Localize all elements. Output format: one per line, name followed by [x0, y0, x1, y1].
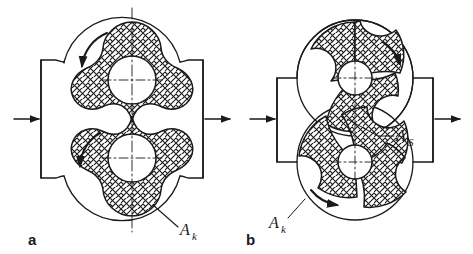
panel-a-caption: a [28, 231, 37, 248]
panel-b-caption: b [246, 231, 255, 248]
figure-canvas: A k A S A k a b [0, 0, 473, 254]
panel-b-label-ak: A k [268, 214, 287, 235]
panel-b [239, 20, 460, 220]
panel-a-label-ak-sub: k [192, 230, 198, 242]
panel-a-label-ak: A k [179, 221, 198, 242]
panel-a-callout-leader-ak [153, 205, 178, 227]
panel-b-label-as-base: A [395, 127, 406, 144]
panel-b-label-ak-sub: k [281, 223, 287, 235]
panel-b-label-ak-base: A [268, 214, 279, 231]
panel-b-label-as-sub: S [408, 136, 414, 148]
panel-b-callout-leader-ak [288, 199, 305, 218]
panel-a-label-ak-base: A [179, 221, 190, 238]
pump-diagram-svg: A k A S A k a b [0, 0, 473, 254]
panel-a [14, 8, 230, 232]
